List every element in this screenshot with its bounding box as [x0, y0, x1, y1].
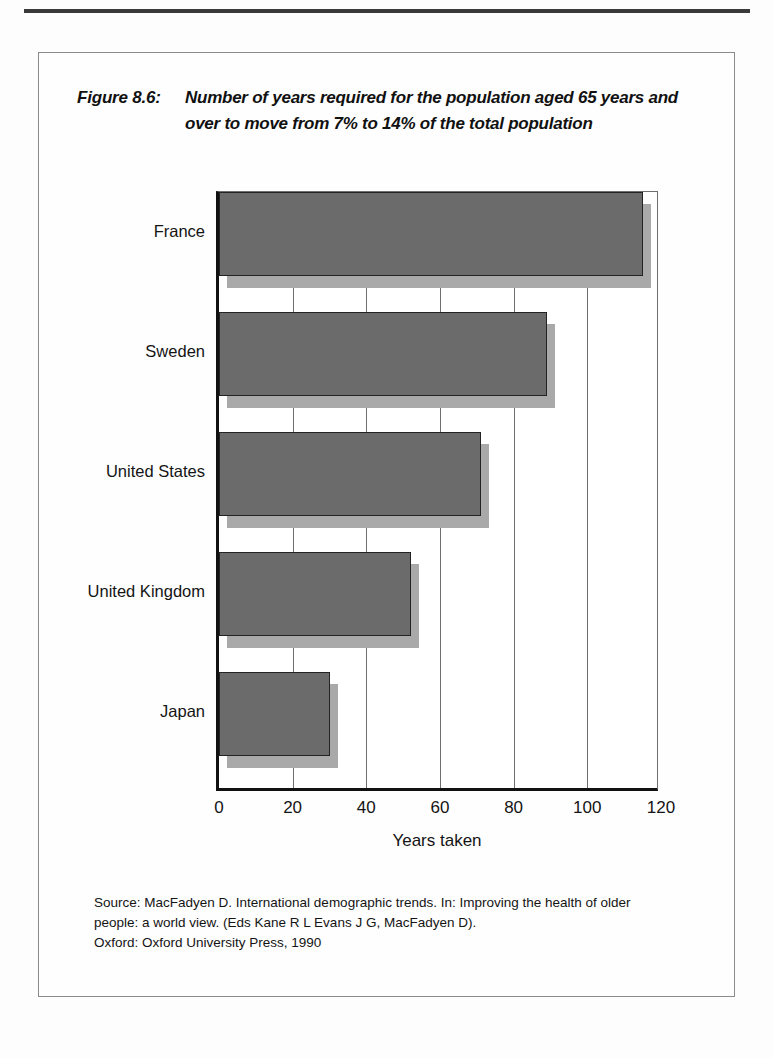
page-top-rule [24, 9, 750, 13]
figure-container: Figure 8.6: Number of years required for… [38, 52, 735, 997]
source-line-3: Oxford: Oxford University Press, 1990 [94, 933, 714, 953]
category-label-sweden: Sweden [145, 342, 205, 361]
bar-united-states[interactable] [219, 432, 481, 516]
bar-sweden[interactable] [219, 312, 547, 396]
source-line-2: people: a world view. (Eds Kane R L Evan… [94, 913, 714, 933]
x-axis-title: Years taken [216, 831, 658, 851]
category-label-japan: Japan [160, 702, 205, 721]
plot-area: France Sweden United States [216, 191, 658, 791]
source-line-1: Source: MacFadyen D. International demog… [94, 893, 714, 913]
xtick-label-100: 100 [573, 798, 601, 818]
bar-france[interactable] [219, 192, 643, 276]
category-label-france: France [154, 222, 205, 241]
category-label-united-kingdom: United Kingdom [88, 582, 205, 601]
xtick-label-120: 120 [647, 798, 675, 818]
bar-chart: France Sweden United States [39, 53, 736, 998]
page-canvas: Figure 8.6: Number of years required for… [0, 0, 773, 1058]
bar-japan[interactable] [219, 672, 330, 756]
xtick-label-60: 60 [431, 798, 450, 818]
xtick-label-20: 20 [283, 798, 302, 818]
source-note: Source: MacFadyen D. International demog… [94, 893, 714, 953]
category-label-united-states: United States [106, 462, 205, 481]
xtick-label-80: 80 [504, 798, 523, 818]
bar-united-kingdom[interactable] [219, 552, 411, 636]
xtick-label-40: 40 [357, 798, 376, 818]
xtick-label-0: 0 [214, 798, 223, 818]
